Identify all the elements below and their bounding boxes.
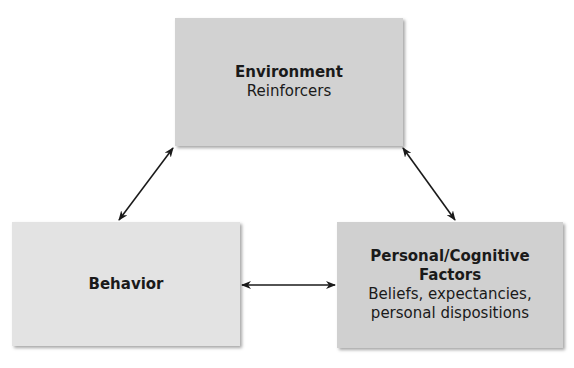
behavior-title: Behavior: [88, 275, 163, 294]
arrow-environment-personal: [403, 148, 455, 220]
environment-subtitle: Reinforcers: [247, 82, 331, 101]
personal-cognitive-node: Personal/Cognitive Factors Beliefs, expe…: [337, 222, 563, 348]
personal-title-line1: Personal/Cognitive: [370, 247, 529, 266]
personal-title-line2: Factors: [419, 266, 481, 285]
personal-subtitle-line2: personal dispositions: [371, 304, 529, 323]
behavior-node: Behavior: [12, 222, 240, 346]
environment-title: Environment: [235, 63, 343, 82]
environment-node: Environment Reinforcers: [175, 18, 403, 146]
personal-subtitle-line1: Beliefs, expectancies,: [368, 285, 531, 304]
arrow-environment-behavior: [119, 148, 173, 220]
